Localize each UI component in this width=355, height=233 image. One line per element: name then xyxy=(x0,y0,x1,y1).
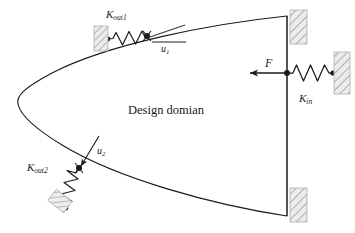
fixed-support-bottom-right xyxy=(290,188,307,222)
label-u1: u1 xyxy=(161,44,169,54)
output-spring-1 xyxy=(106,31,147,45)
fixed-support-output-spring-2 xyxy=(48,189,72,212)
label-u2: u2 xyxy=(97,146,105,156)
fixed-support-input-spring xyxy=(334,52,350,94)
label-k-out2: Kout2 xyxy=(27,162,48,173)
label-k-in: Kin xyxy=(299,93,312,104)
label-k-out1: Kout1 xyxy=(106,9,127,20)
label-design-domain: Design domian xyxy=(128,104,204,117)
fixed-support-output-spring-1 xyxy=(94,26,108,51)
label-force: F xyxy=(265,57,272,69)
compliant-mechanism-diagram: Kout1 u1 F Kin Design domian u2 Kout2 xyxy=(0,0,355,233)
output-node-1 xyxy=(143,31,151,41)
u1-leader-line xyxy=(150,25,186,42)
input-spring xyxy=(287,65,336,81)
fixed-support-top-right xyxy=(290,10,307,44)
